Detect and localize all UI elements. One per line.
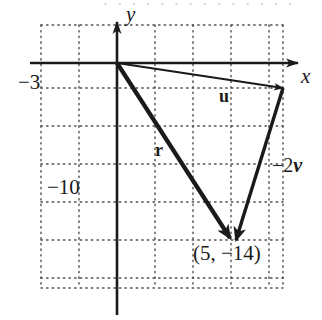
vector-minus-2v-label-prefix: −2 [272, 154, 293, 176]
vector-u-shaft [117, 63, 283, 88]
point-label: (5, −14) [193, 243, 261, 264]
vector-r-label: r [155, 141, 163, 159]
x-tick-minus-3: −3 [18, 72, 40, 93]
vector-u-label: u [219, 87, 229, 105]
vector-r-shaft [117, 63, 230, 238]
vector-minus-2v-label: −2v [272, 155, 302, 175]
vector-minus-2v-label-symbol: v [293, 154, 302, 176]
y-tick-minus-10: −10 [47, 177, 80, 198]
y-axis-label: y [126, 4, 135, 25]
vector-diagram-figure: y x −3 −10 u r −2v (5, −14) [0, 0, 322, 320]
x-axis-label: x [301, 66, 310, 87]
